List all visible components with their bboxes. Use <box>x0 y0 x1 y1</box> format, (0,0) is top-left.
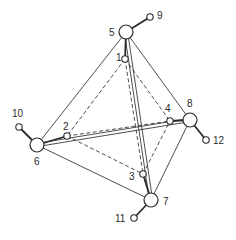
atom-label-9: 9 <box>157 10 163 21</box>
bond-stubs <box>19 17 206 218</box>
atom-node-11 <box>131 215 137 221</box>
atom-node-1 <box>122 56 128 62</box>
inner-tetrahedron-edges <box>67 59 170 174</box>
atom-label-10: 10 <box>12 108 24 119</box>
atom-node-3 <box>140 171 146 177</box>
outer-tetrahedron-edges <box>37 32 191 200</box>
atom-node-9 <box>147 14 153 20</box>
atom-nodes <box>16 14 209 221</box>
atom-label-3: 3 <box>129 171 135 182</box>
atom-label-8: 8 <box>187 98 193 109</box>
edge-8-7 <box>151 120 190 200</box>
atom-label-5: 5 <box>109 27 115 38</box>
atom-node-8 <box>183 113 197 127</box>
edge-5-6 <box>37 32 126 145</box>
atom-node-5 <box>119 25 133 39</box>
atom-node-6 <box>30 138 44 152</box>
atom-label-1: 1 <box>116 52 122 63</box>
atom-node-2 <box>64 133 70 139</box>
atom-label-12: 12 <box>213 135 225 146</box>
atom-node-10 <box>16 124 22 130</box>
dashed-edge-2-3 <box>67 136 143 174</box>
atom-label-7: 7 <box>163 196 169 207</box>
tetrahedral-cluster-diagram: 123456789101112 <box>0 0 236 240</box>
atom-label-11: 11 <box>115 213 126 224</box>
atom-label-4: 4 <box>165 103 171 114</box>
atom-node-4 <box>167 118 173 124</box>
atom-node-7 <box>144 193 158 207</box>
atom-label-2: 2 <box>63 121 69 132</box>
atom-label-6: 6 <box>34 156 40 167</box>
atom-node-12 <box>203 137 209 143</box>
dashed-edge-1-4 <box>125 59 170 121</box>
